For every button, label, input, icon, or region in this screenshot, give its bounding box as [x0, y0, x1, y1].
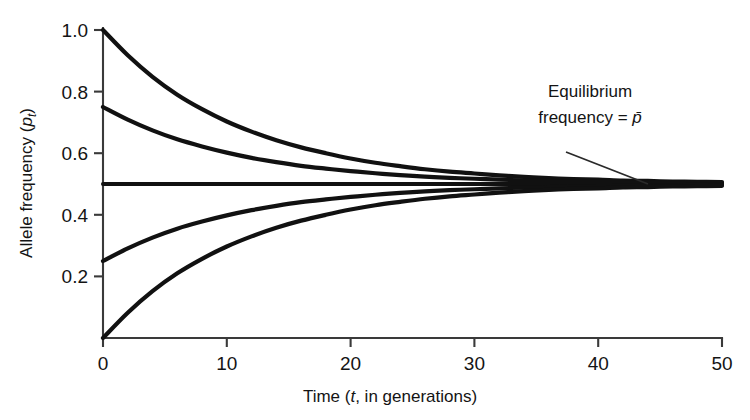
equilibrium-annotation-line2: frequency = p̄ — [538, 108, 642, 127]
equilibrium-annotation-line1: Equilibrium — [548, 82, 632, 101]
curve-p0-0.00 — [103, 186, 722, 338]
x-tick-label-0: 0 — [98, 353, 109, 374]
y-tick-label-0.4: 0.4 — [62, 205, 89, 226]
x-tick-label-50: 50 — [711, 353, 732, 374]
y-tick-label-0.8: 0.8 — [62, 82, 88, 103]
y-axis-title-italic: p — [17, 117, 36, 127]
y-tick-label-0.6: 0.6 — [62, 143, 88, 164]
curve-p0-1.00 — [103, 30, 722, 182]
data-curves — [103, 30, 722, 338]
y-tick-label-0.2: 0.2 — [62, 266, 88, 287]
equilibrium-annotation-prefix: frequency = — [538, 108, 632, 127]
x-tick-label-40: 40 — [588, 353, 609, 374]
y-axis-title: Allele frequency (pt) — [17, 108, 39, 258]
equilibrium-annotation-symbol: p̄ — [631, 108, 641, 127]
y-axis-title-prefix: Allele frequency ( — [17, 126, 36, 258]
curve-p0-0.25 — [103, 185, 722, 261]
x-tick-label-20: 20 — [340, 353, 361, 374]
x-axis-title: Time (t, in generations) — [303, 387, 477, 406]
x-tick-label-10: 10 — [216, 353, 237, 374]
y-tick-label-1.0: 1.0 — [62, 20, 88, 41]
x-axis-title-prefix: Time ( — [303, 387, 351, 406]
x-axis-title-suffix: , in generations) — [355, 387, 477, 406]
chart-svg: 1.0 0.8 0.6 0.4 0.2 0 10 20 30 40 50 Tim… — [0, 0, 750, 420]
y-axis-title-suffix: ) — [17, 108, 36, 114]
x-tick-label-30: 30 — [464, 353, 485, 374]
chart-figure: 1.0 0.8 0.6 0.4 0.2 0 10 20 30 40 50 Tim… — [0, 0, 750, 420]
